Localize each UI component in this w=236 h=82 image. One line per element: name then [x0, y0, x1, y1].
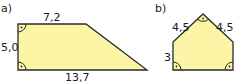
geometry-figures: a) 7,2 5,0 13,7 b) 4,5 4,5 3: [0, 0, 236, 82]
trapezoid-bottom-length: 13,7: [65, 71, 90, 82]
figure-a-label: a): [1, 2, 12, 15]
pentagon-upper-left-length: 4,5: [172, 21, 190, 34]
trapezoid-top-length: 7,2: [43, 11, 61, 24]
pentagon-left-length: 3: [164, 51, 171, 64]
figure-b-label: b): [155, 2, 166, 15]
trapezoid-shape: [18, 24, 147, 70]
pentagon-upper-right-length: 4,5: [216, 21, 234, 34]
trapezoid-left-length: 5,0: [1, 41, 19, 54]
